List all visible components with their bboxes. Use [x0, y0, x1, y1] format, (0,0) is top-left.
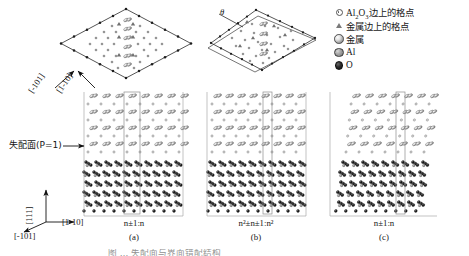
- legend-item-o: O: [332, 59, 468, 72]
- panel-a-label: (a): [102, 233, 166, 242]
- legend: Al2O3边上的格点 金属边上的格点 金属 Al O: [332, 6, 468, 72]
- figure-caption: 图 … 失配面与界面错配结构: [108, 249, 221, 256]
- panel-c-lattice: [330, 92, 439, 216]
- ring-dot-icon: [332, 9, 346, 16]
- panel-b-label: (b): [224, 233, 288, 242]
- o-sphere-icon: [332, 61, 346, 70]
- figure-root: Al2O3边上的格点 金属边上的格点 金属 Al O 失配面(P=1) θ [-…: [0, 0, 469, 256]
- top-right-rotated-diamond-panel: [208, 9, 316, 72]
- axis-label-111: [111]: [25, 207, 34, 225]
- axis-label-minus101: [-101]: [14, 232, 35, 241]
- theta-label: θ: [220, 8, 224, 17]
- panel-b-ratio: n²±n±1:n²: [224, 219, 288, 228]
- axis-label-1minus10: [1-10]: [62, 218, 83, 227]
- panel-c-ratio: n±1:n: [352, 219, 416, 228]
- legend-item-metal: 金属: [332, 32, 468, 45]
- legend-label-metal: 金属: [346, 32, 364, 46]
- legend-label-o: O: [346, 60, 353, 70]
- triangle-icon: [332, 23, 346, 28]
- al-sphere-icon: [332, 48, 346, 57]
- misfit-plane-label: 失配面(P=1): [9, 141, 62, 150]
- panel-b-lattice: [207, 92, 307, 216]
- legend-item-al2o3-lattice-point: Al2O3边上的格点: [332, 6, 468, 19]
- panel-a-lattice: [83, 92, 190, 216]
- panel-c-label: (c): [352, 233, 416, 242]
- legend-item-metal-lattice-point: 金属边上的格点: [332, 19, 468, 32]
- panel-a-ratio: n±1:n: [102, 219, 166, 228]
- legend-label-metal-lattice-point: 金属边上的格点: [346, 19, 409, 33]
- top-left-diamond-panel: [55, 8, 192, 88]
- metal-sphere-icon: [332, 34, 346, 44]
- legend-label-al: Al: [346, 47, 355, 57]
- legend-item-al: Al: [332, 46, 468, 59]
